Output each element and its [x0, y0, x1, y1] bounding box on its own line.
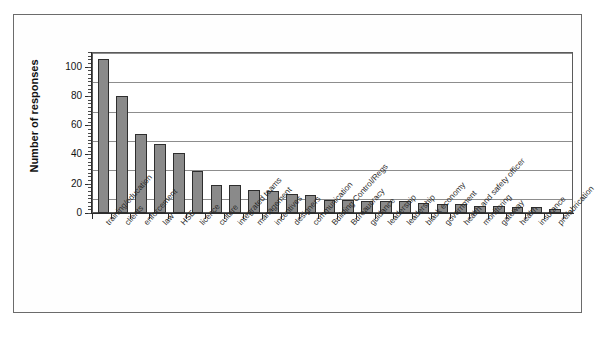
x-axis-category-labels: training/educationclientsenforcementlawH…	[0, 0, 597, 337]
x-axis-category-label: HSE	[179, 208, 197, 227]
x-axis-category-label: law	[161, 212, 176, 227]
x-axis-category-label: licence	[198, 202, 222, 227]
bar-chart: 020406080100 Number of responses trainin…	[0, 0, 597, 337]
